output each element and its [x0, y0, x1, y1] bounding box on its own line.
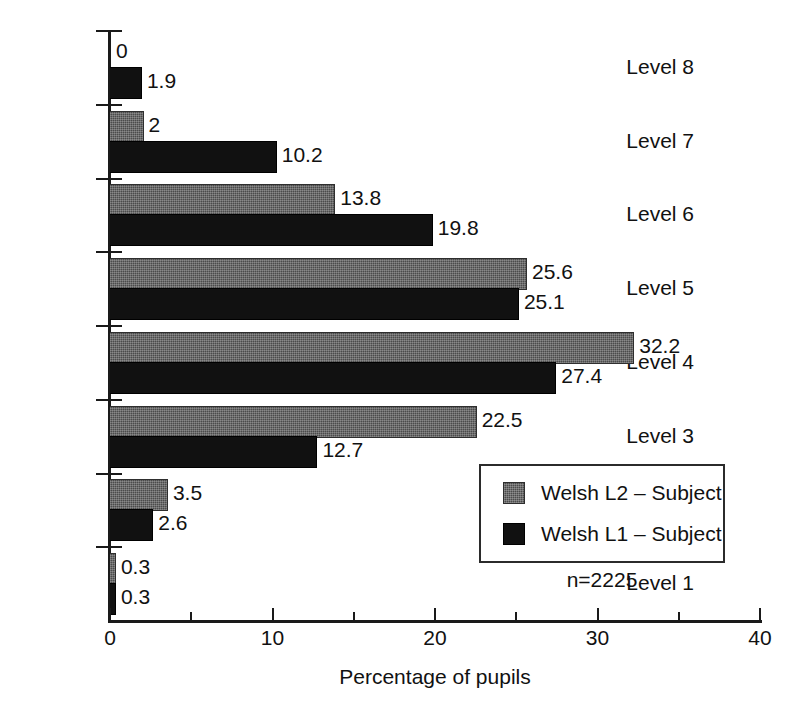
- bar-value-label: 3.5: [173, 482, 202, 504]
- bar-welsh-l2: [110, 258, 527, 290]
- bar-value-label: 32.2: [639, 335, 680, 357]
- legend-label-welsh-l2: Welsh L2 – Subject: [541, 482, 722, 504]
- bar-value-label: 25.1: [524, 291, 565, 313]
- bar-value-label: 19.8: [438, 217, 479, 239]
- bar-chart: Level 8Level 7Level 6Level 5Level 4Level…: [0, 0, 797, 721]
- y-tick: [96, 399, 109, 401]
- bar-value-label: 1.9: [147, 70, 176, 92]
- bar-value-label: 2: [149, 114, 161, 136]
- bar-welsh-l1: [110, 288, 519, 320]
- bar-welsh-l2: [110, 553, 116, 585]
- y-tick: [96, 251, 109, 253]
- x-tick-minor: [678, 612, 680, 621]
- y-tick-inner: [111, 325, 122, 327]
- legend-entry-welsh-l1: Welsh L1 – Subject: [503, 523, 722, 545]
- y-tick-inner: [111, 399, 122, 401]
- bar-welsh-l2: [110, 479, 168, 511]
- x-tick: [597, 608, 599, 621]
- y-tick: [96, 178, 109, 180]
- category-label: Level 8: [626, 55, 694, 79]
- bar-value-label: 0: [116, 40, 128, 62]
- x-tick-label: 0: [80, 626, 140, 650]
- x-tick: [434, 608, 436, 621]
- bar-value-label: 22.5: [482, 409, 523, 431]
- bar-value-label: 13.8: [340, 187, 381, 209]
- x-tick-minor: [190, 612, 192, 621]
- y-tick: [96, 104, 109, 106]
- bar-welsh-l2: [110, 184, 335, 216]
- sample-size-note: n=2225: [479, 568, 725, 592]
- x-tick-label: 30: [568, 626, 628, 650]
- y-tick-inner: [111, 546, 122, 548]
- x-tick: [759, 608, 761, 621]
- bar-value-label: 0.3: [121, 556, 150, 578]
- y-tick-inner: [111, 251, 122, 253]
- bar-welsh-l2: [110, 406, 477, 438]
- bar-value-label: 2.6: [158, 512, 187, 534]
- legend-entry-welsh-l2: Welsh L2 – Subject: [503, 482, 722, 504]
- x-tick-label: 20: [405, 626, 465, 650]
- bar-value-label: 25.6: [532, 261, 573, 283]
- y-tick: [96, 30, 109, 32]
- bar-welsh-l1: [110, 141, 277, 173]
- bar-welsh-l2: [110, 111, 144, 143]
- category-label: Level 7: [626, 129, 694, 153]
- bar-value-label: 0.3: [121, 586, 150, 608]
- bar-welsh-l1: [110, 509, 153, 541]
- bar-welsh-l2: [110, 332, 634, 364]
- x-tick: [109, 608, 111, 621]
- bar-welsh-l1: [110, 436, 317, 468]
- x-tick-minor: [515, 612, 517, 621]
- y-tick: [96, 546, 109, 548]
- bar-welsh-l1: [110, 362, 556, 394]
- category-label: Level 5: [626, 276, 694, 300]
- x-tick-label: 40: [730, 626, 790, 650]
- y-tick-inner: [111, 104, 122, 106]
- y-tick: [96, 473, 109, 475]
- y-tick-inner: [111, 30, 122, 32]
- legend-swatch-grey-hatched-swatch: [503, 482, 525, 504]
- y-tick-inner: [111, 178, 122, 180]
- bar-value-label: 10.2: [282, 144, 323, 166]
- legend-label-welsh-l1: Welsh L1 – Subject: [541, 523, 722, 545]
- legend: Welsh L2 – Subject Welsh L1 – Subject: [479, 464, 725, 563]
- category-label: Level 6: [626, 202, 694, 226]
- bar-welsh-l1: [110, 214, 433, 246]
- x-tick-minor: [353, 612, 355, 621]
- bar-value-label: 27.4: [561, 365, 602, 387]
- bar-value-label: 12.7: [322, 439, 363, 461]
- bar-welsh-l1: [110, 67, 142, 99]
- x-tick: [272, 608, 274, 621]
- y-tick: [96, 325, 109, 327]
- category-label: Level 3: [626, 424, 694, 448]
- x-tick-label: 10: [243, 626, 303, 650]
- x-axis-title: Percentage of pupils: [108, 665, 762, 689]
- y-tick-inner: [111, 473, 122, 475]
- legend-swatch-black-swatch: [503, 523, 525, 545]
